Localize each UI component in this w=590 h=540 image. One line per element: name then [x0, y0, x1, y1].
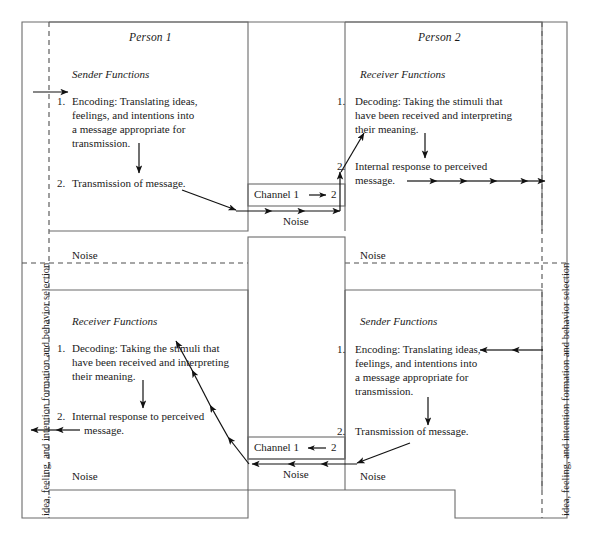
- center-column-box: [248, 237, 345, 459]
- tr-step1-line2: have been received and interpreting: [355, 109, 512, 123]
- bl-step2-line2: message.: [84, 424, 124, 438]
- tr-step1-number: 1.: [337, 95, 345, 109]
- channel-upper-label: Channel 1: [254, 188, 299, 202]
- person1-title: Person 1: [129, 30, 172, 44]
- channel-upper-target: 2: [331, 188, 337, 202]
- tl-step2-text: Transmission of message.: [72, 177, 186, 191]
- tl-role-heading: Sender Functions: [72, 68, 149, 82]
- tr-noise-label: Noise: [360, 249, 386, 263]
- bl-step1-line3: their meaning.: [72, 370, 136, 384]
- tl-step1-line2: feelings, and intentions into: [72, 109, 194, 123]
- bl-step2-line1: Internal response to perceived: [72, 410, 204, 424]
- tr-step2-line1: Internal response to perceived: [355, 160, 487, 174]
- tr-step2-line2: message.: [355, 174, 395, 188]
- br-noise-label: Noise: [360, 470, 386, 484]
- br-step1-line2: feelings, and intentions into: [355, 357, 477, 371]
- side-label-left: idea, feeling, and intention formation a…: [40, 263, 51, 516]
- channel-lower-target: 2: [331, 441, 337, 455]
- tl-step1-line1: Encoding: Translating ideas,: [72, 95, 198, 109]
- tl-step2-number: 2.: [57, 177, 65, 191]
- arrow-transmission-to-channel-lower: [357, 443, 410, 463]
- br-step1-number: 1.: [337, 343, 345, 357]
- bl-step1-line1: Decoding: Taking the stimuli that: [72, 342, 220, 356]
- br-step1-line4: transmission.: [355, 385, 413, 399]
- tl-step1-number: 1.: [57, 95, 65, 109]
- br-step1-line3: a message appropriate for: [355, 371, 468, 385]
- tr-role-heading: Receiver Functions: [360, 68, 445, 82]
- channel-upper-noise: Noise: [283, 215, 309, 229]
- side-label-right: idea, feeling, and intention formation a…: [560, 263, 571, 516]
- bl-step1-number: 1.: [57, 342, 65, 356]
- tl-step1-line4: transmission.: [72, 137, 130, 151]
- channel-lower-noise: Noise: [283, 468, 309, 482]
- br-role-heading: Sender Functions: [360, 315, 437, 329]
- bl-noise-label: Noise: [72, 470, 98, 484]
- br-step2-text: Transmission of message.: [355, 425, 469, 439]
- tr-step2-number: 2.: [337, 160, 345, 174]
- person2-title: Person 2: [418, 30, 461, 44]
- diagram-canvas: idea, feeling, and intention formation a…: [0, 0, 590, 540]
- tl-step1-line3: a message appropriate for: [72, 123, 185, 137]
- br-step1-line1: Encoding: Translating ideas,: [355, 343, 481, 357]
- bl-step2-number: 2.: [57, 410, 65, 424]
- bl-step1-line2: have been received and interpreting: [72, 356, 229, 370]
- bl-role-heading: Receiver Functions: [72, 315, 157, 329]
- tr-step1-line1: Decoding: Taking the stimuli that: [355, 95, 503, 109]
- tl-noise-label: Noise: [72, 249, 98, 263]
- tr-step1-line3: their meaning.: [355, 123, 419, 137]
- channel-lower-label: Channel 1: [254, 441, 299, 455]
- br-step2-number: 2.: [337, 425, 345, 439]
- arrow-transmission-to-channel-upper: [182, 190, 236, 210]
